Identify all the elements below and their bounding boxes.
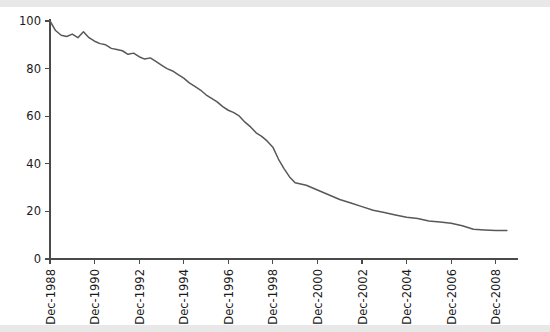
x-tick-group: Dec-1988Dec-1990Dec-1992Dec-1994Dec-1996… (44, 259, 504, 325)
y-tick-label: 0 (34, 252, 41, 266)
y-tick-label: 80 (26, 62, 41, 76)
y-tick-label: 40 (26, 157, 41, 171)
x-tick-label: Dec-1998 (266, 269, 280, 325)
y-tick-label: 60 (26, 109, 41, 123)
x-tick-label: Dec-2004 (400, 269, 414, 325)
series-group (50, 21, 507, 230)
x-tick-label: Dec-1996 (222, 269, 236, 325)
x-tick-label: Dec-2008 (489, 269, 503, 325)
x-tick-label: Dec-2002 (356, 269, 370, 325)
data-series-survival (50, 21, 507, 230)
plot-canvas: 020406080100 Dec-1988Dec-1990Dec-1992Dec… (0, 7, 550, 325)
x-tick-label: Dec-1992 (133, 269, 147, 325)
x-tick-label: Dec-1994 (177, 269, 191, 325)
x-tick-label: Dec-2006 (445, 269, 459, 325)
x-tick-label: Dec-1988 (44, 269, 58, 325)
top-edge-band (0, 0, 550, 7)
line-chart: 020406080100 Dec-1988Dec-1990Dec-1992Dec… (0, 7, 550, 325)
x-tick-label: Dec-1990 (88, 269, 102, 325)
y-tick-label: 100 (19, 14, 41, 28)
bottom-edge-band (0, 325, 550, 332)
y-tick-group: 020406080100 (19, 14, 50, 266)
x-tick-label: Dec-2000 (311, 269, 325, 325)
chart-figure: 020406080100 Dec-1988Dec-1990Dec-1992Dec… (0, 0, 550, 332)
y-tick-label: 20 (26, 204, 41, 218)
